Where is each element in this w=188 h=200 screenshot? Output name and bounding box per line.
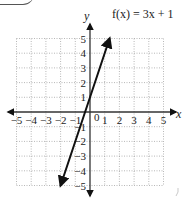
function-graph: −5−4−3−2−112345012345−1−2−3−4−5 f(x) = 3… [0,0,188,200]
page-curl-mark [176,188,178,196]
svg-text:4: 4 [81,47,87,59]
svg-text:−3: −3 [74,150,86,162]
svg-text:−5: −5 [11,114,23,126]
svg-text:0: 0 [94,111,100,123]
svg-text:−5: −5 [74,180,86,192]
svg-text:−3: −3 [40,114,52,126]
x-axis-label: x [175,107,182,121]
svg-text:−2: −2 [55,114,67,126]
svg-text:1: 1 [102,114,108,126]
svg-text:2: 2 [81,77,87,89]
svg-text:1: 1 [81,91,87,103]
svg-text:3: 3 [131,114,137,126]
svg-text:3: 3 [81,62,87,74]
svg-text:5: 5 [161,114,167,126]
svg-text:4: 4 [146,114,152,126]
svg-text:2: 2 [117,114,123,126]
svg-text:5: 5 [81,33,87,45]
chart-title: f(x) = 3x + 1 [112,7,174,21]
y-axis-label: y [83,9,90,23]
axes [8,24,176,196]
svg-text:−4: −4 [25,114,37,126]
svg-text:−4: −4 [74,165,86,177]
